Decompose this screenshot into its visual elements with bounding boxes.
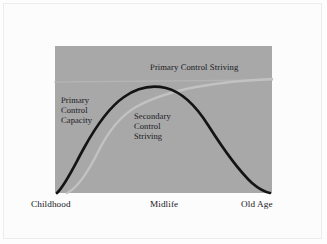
label-primary-control-striving: Primary Control Striving — [150, 62, 270, 72]
axis-label-childhood: Childhood — [31, 199, 71, 210]
label-secondary-control-striving: Secondary Control Striving — [134, 111, 194, 142]
figure-root: Primary Control Capacity Secondary Contr… — [0, 0, 327, 244]
label-primary-control-capacity: Primary Control Capacity — [61, 95, 113, 126]
axis-label-old-age: Old Age — [241, 199, 273, 210]
axis-label-midlife: Midlife — [150, 199, 178, 210]
